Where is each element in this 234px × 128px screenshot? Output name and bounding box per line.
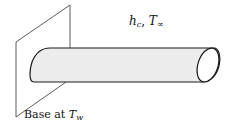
t-symbol: T — [149, 14, 157, 28]
cylindrical-fin — [30, 45, 223, 84]
h-symbol: h — [129, 14, 137, 28]
t-infinity-subscript: ∞ — [157, 20, 164, 29]
base-text: Base at — [24, 108, 69, 121]
separator: , — [141, 14, 149, 28]
base-t-subscript: w — [76, 113, 83, 122]
base-label: Base at Tw — [24, 108, 83, 122]
convection-label: hc, T∞ — [129, 14, 164, 29]
